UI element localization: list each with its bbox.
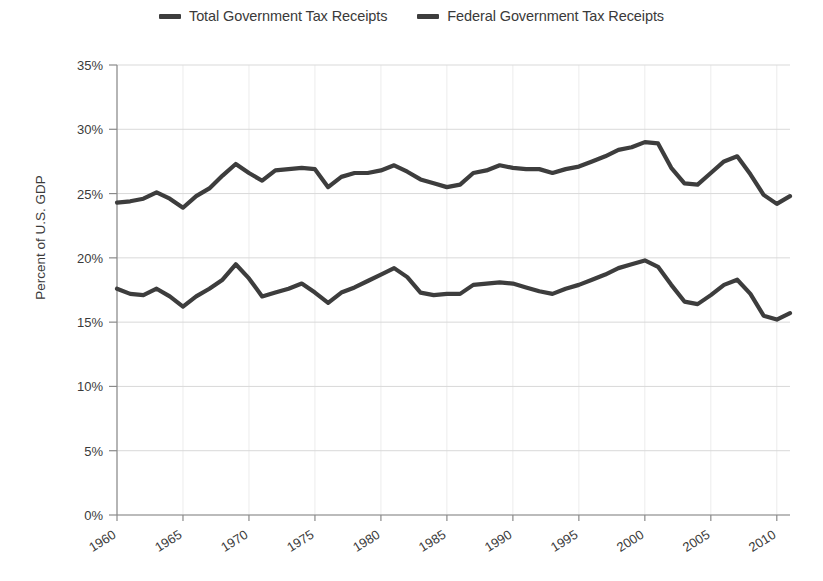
x-axis-tick-labels: 1960196519701975198019851990199520002005… [86, 527, 778, 555]
y-axis-tick-label: 25% [77, 187, 103, 202]
tax-receipts-line-chart: Total Government Tax Receipts Federal Go… [0, 0, 823, 581]
x-axis-tick-label: 2000 [614, 527, 646, 555]
data-series-group [117, 142, 790, 319]
plot-svg: 0%5%10%15%20%25%30%35% 19601965197019751… [0, 0, 823, 581]
y-axis-tick-label: 10% [77, 379, 103, 394]
y-axis-tick-labels: 0%5%10%15%20%25%30%35% [77, 58, 103, 523]
y-axis-tick-label: 30% [77, 122, 103, 137]
horizontal-gridlines [117, 65, 790, 515]
x-axis-tick-label: 1975 [284, 527, 316, 555]
x-axis-tick-label: 1995 [548, 527, 580, 555]
x-axis-tick-label: 1970 [218, 527, 250, 555]
y-axis-tick-label: 5% [84, 444, 103, 459]
x-axis-tick-label: 1990 [482, 527, 514, 555]
y-axis-tick-label: 35% [77, 58, 103, 73]
x-axis-tick-label: 1980 [350, 527, 382, 555]
x-axis-tick-label: 2010 [746, 527, 778, 555]
x-axis-tick-label: 1965 [152, 527, 184, 555]
y-axis-tick-label: 20% [77, 251, 103, 266]
y-axis-tick-label: 15% [77, 315, 103, 330]
x-axis-tick-label: 1985 [416, 527, 448, 555]
series-line-federal-government [117, 260, 790, 319]
x-axis-tick-label: 1960 [86, 527, 118, 555]
y-axis-tick-label: 0% [84, 508, 103, 523]
series-line-total-government [117, 142, 790, 208]
plot-area: 0%5%10%15%20%25%30%35% 19601965197019751… [0, 0, 823, 581]
x-axis-tick-label: 2005 [680, 527, 712, 555]
